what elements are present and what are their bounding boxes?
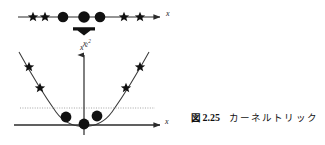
feature-space-x-label: x	[164, 117, 169, 126]
feature-map-arrow-glyph	[73, 27, 95, 35]
input-circle-1	[58, 12, 69, 23]
feature-map-label-exponent: 2	[88, 38, 91, 44]
input-circle-3	[95, 12, 106, 23]
feature-circle-2	[79, 119, 90, 130]
input-space-panel: x	[18, 9, 170, 23]
kernel-trick-figure: x x 2 x x 2	[0, 0, 325, 145]
feature-map-arrow	[73, 27, 95, 35]
feature-circle-3	[92, 111, 103, 122]
feature-star-right-2	[135, 62, 145, 72]
feature-space-panel: x x 2	[14, 42, 169, 135]
input-space-x-label: x	[165, 9, 170, 18]
figure-caption: 図2.25カーネルトリック	[191, 110, 318, 124]
feature-space-y-label-base: x	[79, 43, 84, 52]
input-star-right-2	[135, 12, 145, 22]
caption-text: カーネルトリック	[229, 112, 318, 123]
feature-circle-1	[61, 112, 72, 123]
input-star-right-1	[119, 12, 129, 22]
input-star-left-2	[40, 12, 50, 22]
feature-space-y-label-exponent: 2	[85, 42, 88, 48]
caption-prefix: 図	[191, 112, 201, 123]
input-star-left-1	[28, 12, 38, 22]
feature-star-left-2	[35, 83, 45, 93]
input-circle-2	[78, 11, 90, 23]
caption-number: 2.25	[203, 112, 221, 123]
